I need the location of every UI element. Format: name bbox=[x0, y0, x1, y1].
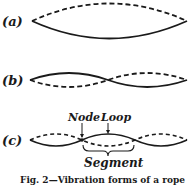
panel-a-dashed-curve bbox=[32, 4, 187, 22]
panel-c: (c) Node Loop Segment bbox=[2, 111, 187, 170]
figure-caption: Fig. 2—Vibration forms of a rope bbox=[20, 175, 185, 185]
segment-label: Segment bbox=[84, 156, 144, 170]
panel-a-solid-curve bbox=[32, 21, 187, 39]
panel-b-label: (b) bbox=[2, 73, 23, 88]
node-label: Node bbox=[67, 111, 100, 124]
panel-c-solid-curve bbox=[30, 134, 187, 146]
panel-a-label: (a) bbox=[2, 14, 23, 29]
node-point bbox=[80, 138, 84, 142]
panel-a: (a) bbox=[2, 4, 187, 39]
panel-c-label: (c) bbox=[2, 133, 22, 148]
panel-b-dashed-curve bbox=[30, 73, 187, 87]
vibration-forms-diagram: (a) (b) (c) Node Loop Segment Fig. 2—Vib… bbox=[0, 0, 195, 185]
segment-bracket bbox=[83, 145, 134, 156]
node-arrowhead bbox=[80, 134, 84, 138]
loop-label: Loop bbox=[100, 111, 131, 124]
panel-c-dashed-curve bbox=[30, 134, 187, 146]
panel-b: (b) bbox=[2, 73, 187, 88]
